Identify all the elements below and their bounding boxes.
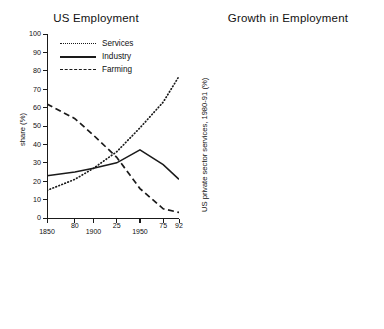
x-tick-label: 1900 — [79, 228, 107, 235]
legend-label-industry: Industry — [102, 51, 131, 62]
x-tick-label: 1850 — [33, 228, 61, 235]
y-tick-label: 30 — [15, 159, 41, 166]
legend-label-farming: Farming — [102, 64, 132, 75]
y-tick-label: 20 — [15, 178, 41, 185]
y-tick — [43, 107, 47, 108]
legend-swatch-services — [60, 43, 96, 44]
y-tick-label: 90 — [15, 49, 41, 56]
y-axis-title-right: US private sector services, 1980-91 (%) — [200, 78, 209, 212]
y-tick-label: 80 — [15, 67, 41, 74]
y-tick — [43, 181, 47, 182]
legend-swatch-farming — [60, 69, 96, 70]
panel-us-employment: US Employment share (%) 0102030405060708… — [0, 0, 192, 329]
x-tick — [93, 219, 94, 223]
x-tick-label: 1950 — [126, 228, 154, 235]
y-tick-label: 50 — [15, 122, 41, 129]
y-tick — [43, 162, 47, 163]
chart-title-right: Growth in Employment — [192, 12, 384, 24]
line-series-industry — [47, 150, 179, 179]
y-tick — [43, 126, 47, 127]
x-tick — [47, 219, 48, 223]
y-tick-label: 10 — [15, 196, 41, 203]
legend-label-services: Services — [102, 38, 133, 49]
employment-figure: US Employment share (%) 0102030405060708… — [0, 0, 384, 329]
panel-growth-in-employment: Growth in Employment US private sector s… — [192, 0, 384, 329]
y-tick-label: 0 — [15, 214, 41, 221]
x-tick — [139, 219, 140, 223]
line-series-farming — [47, 104, 179, 213]
y-tick-label: 40 — [15, 141, 41, 148]
y-tick — [43, 199, 47, 200]
x-axis-left — [47, 218, 179, 219]
y-tick — [43, 144, 47, 145]
x-tick-label: 92 — [165, 222, 193, 229]
y-tick — [43, 52, 47, 53]
y-tick — [43, 89, 47, 90]
y-tick — [43, 70, 47, 71]
y-tick — [43, 34, 47, 35]
legend-swatch-industry — [60, 56, 96, 58]
y-tick-label: 100 — [15, 30, 41, 37]
y-tick-label: 60 — [15, 104, 41, 111]
y-tick-label: 70 — [15, 86, 41, 93]
chart-title-left: US Employment — [0, 12, 192, 24]
